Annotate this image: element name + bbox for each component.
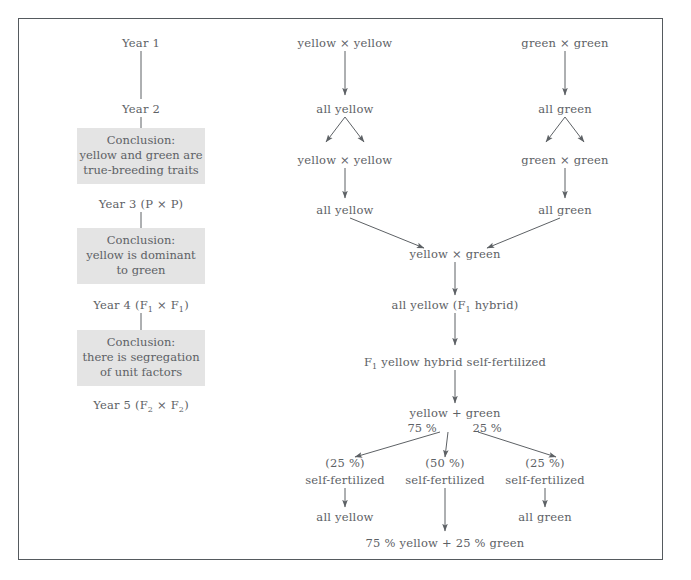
green-offspring-1: all green — [538, 102, 592, 117]
f3-column-1-percent: (25 %) — [325, 456, 364, 471]
year-4-subscript-1: 1 — [148, 305, 153, 314]
year-5-suffix: ) — [184, 398, 189, 412]
selfed-suffix: yellow hybrid self-fertilized — [377, 355, 546, 369]
f3-column-1-result: all yellow — [316, 510, 373, 525]
f3-column-1-action: self-fertilized — [305, 473, 385, 488]
timeline-year-2: Year 2 — [122, 102, 160, 117]
timeline-year-4: Year 4 (F1 × F1) — [93, 298, 189, 315]
year-4-prefix: Year 4 (F — [93, 298, 148, 312]
green-cross-1: green × green — [521, 36, 608, 51]
f3-column-3-action: self-fertilized — [505, 473, 585, 488]
arrow-yellow-to-hybrid — [350, 218, 424, 248]
f1-prefix: all yellow (F — [392, 298, 466, 312]
final-result: 75 % yellow + 25 % green — [366, 536, 525, 551]
year-5-subscript-1: 2 — [148, 405, 153, 414]
conclusion-2-title: Conclusion: — [77, 233, 205, 248]
arrow-green-split-left — [546, 117, 565, 142]
selfed-prefix: F — [364, 355, 372, 369]
arrow-green-split-right — [565, 117, 584, 142]
f3-column-3-result: all green — [518, 510, 572, 525]
f2-result: yellow + green — [409, 406, 500, 421]
green-cross-2: green × green — [521, 153, 608, 168]
f2-green-percent: 25 % — [472, 421, 501, 435]
yellow-cross-2: yellow × yellow — [298, 153, 393, 168]
arrow-f2-to-col1 — [355, 432, 440, 457]
conclusion-2-line-2: to green — [77, 263, 205, 278]
arrow-yellow-split-right — [345, 117, 364, 142]
conclusion-2-line-1: yellow is dominant — [77, 248, 205, 263]
f3-column-2-percent: (50 %) — [425, 456, 464, 471]
f1-selfed-label: F1 yellow hybrid self-fertilized — [364, 355, 546, 372]
yellow-offspring-1: all yellow — [316, 102, 373, 117]
green-offspring-2: all green — [538, 203, 592, 218]
arrow-f2-to-col2 — [445, 432, 448, 457]
year-5-middle: × F — [153, 398, 179, 412]
conclusion-1-line-2: true-breeding traits — [77, 163, 205, 178]
yellow-offspring-2: all yellow — [316, 203, 373, 218]
year-4-subscript-2: 1 — [179, 305, 184, 314]
hybrid-cross: yellow × green — [409, 247, 500, 262]
f1-hybrid-label: all yellow (F1 hybrid) — [392, 298, 519, 315]
yellow-cross-1: yellow × yellow — [298, 36, 393, 51]
arrow-yellow-split-left — [326, 117, 345, 142]
f1-subscript: 1 — [466, 305, 471, 314]
f3-column-2-action: self-fertilized — [405, 473, 485, 488]
year-5-prefix: Year 5 (F — [93, 398, 148, 412]
conclusion-box-3: Conclusion: there is segregation of unit… — [77, 330, 205, 386]
conclusion-3-line-1: there is segregation — [77, 350, 205, 365]
conclusion-box-2: Conclusion: yellow is dominant to green — [77, 228, 205, 284]
f3-column-3-percent: (25 %) — [525, 456, 564, 471]
f2-yellow-percent: 75 % — [407, 421, 436, 435]
conclusion-3-line-2: of unit factors — [77, 365, 205, 380]
conclusion-3-title: Conclusion: — [77, 335, 205, 350]
year-5-subscript-2: 2 — [179, 405, 184, 414]
flow-arrows — [0, 0, 691, 580]
conclusion-1-title: Conclusion: — [77, 133, 205, 148]
timeline-year-5: Year 5 (F2 × F2) — [93, 398, 189, 415]
conclusion-box-1: Conclusion: yellow and green are true-br… — [77, 128, 205, 184]
timeline-year-1: Year 1 — [122, 36, 160, 51]
arrow-green-to-hybrid — [487, 218, 560, 248]
conclusion-1-line-1: yellow and green are — [77, 148, 205, 163]
year-4-suffix: ) — [184, 298, 189, 312]
f1-suffix: hybrid) — [471, 298, 519, 312]
selfed-subscript: 1 — [372, 362, 377, 371]
arrow-f2-to-col3 — [478, 432, 556, 457]
timeline-year-3: Year 3 (P × P) — [99, 197, 184, 212]
year-4-middle: × F — [153, 298, 179, 312]
